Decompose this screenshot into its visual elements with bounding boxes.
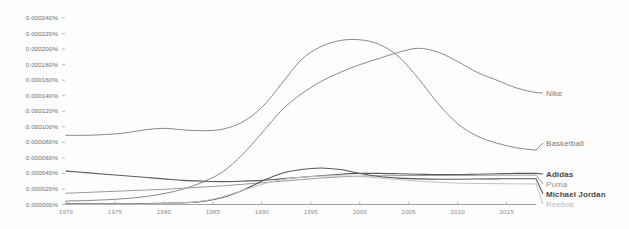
- series-label-adidas[interactable]: Adidas: [546, 170, 573, 179]
- y-tick-label: 0.000140%: [0, 92, 58, 99]
- series-label-nike[interactable]: Nike: [546, 89, 562, 98]
- series-lines-group: [66, 39, 536, 204]
- x-tick-label: 1995: [293, 208, 329, 215]
- series-line-michael-jordan[interactable]: [66, 168, 536, 204]
- series-line-nike[interactable]: [66, 48, 536, 201]
- x-tick-label: 1970: [48, 208, 84, 215]
- y-tick-label: 0.000240%: [0, 14, 58, 21]
- y-tick-label: 0.000160%: [0, 76, 58, 83]
- leader-line-basketball: [536, 143, 543, 150]
- x-tick-label: 1990: [244, 208, 280, 215]
- x-tick-label: 2015: [489, 208, 525, 215]
- y-tick-label: 0.000060%: [0, 154, 58, 161]
- y-tick-label: 0.000080%: [0, 138, 58, 145]
- label-leader-lines: [536, 93, 543, 204]
- leader-line-puma: [536, 175, 543, 184]
- x-tick-label: 1975: [97, 208, 133, 215]
- y-tick-label: 0.000120%: [0, 107, 58, 114]
- y-tick-label: 0.000040%: [0, 169, 58, 176]
- y-tick-label: 0.000100%: [0, 123, 58, 130]
- series-label-reebok[interactable]: Reebok: [546, 200, 574, 209]
- series-label-michael-jordan[interactable]: Michael Jordan: [546, 190, 606, 199]
- chart-plot-area: [0, 0, 629, 229]
- y-tick-label: 0.000180%: [0, 61, 58, 68]
- series-label-puma[interactable]: Puma: [546, 180, 567, 189]
- x-tick-label: 1980: [146, 208, 182, 215]
- y-tick-label: 0.000000%: [0, 201, 58, 208]
- x-tick-label: 2005: [391, 208, 427, 215]
- leader-line-adidas: [536, 173, 543, 174]
- ngram-chart-panel: 0.000240%0.000220%0.000200%0.000180%0.00…: [0, 0, 629, 229]
- y-tick-label: 0.000220%: [0, 30, 58, 37]
- series-label-basketball[interactable]: Basketball: [546, 139, 584, 148]
- x-tick-label: 1985: [195, 208, 231, 215]
- y-tick-label: 0.000020%: [0, 185, 58, 192]
- y-tick-label: 0.000200%: [0, 45, 58, 52]
- y-tick-marks: [62, 18, 65, 205]
- x-tick-label: 2010: [440, 208, 476, 215]
- x-tick-label: 2000: [342, 208, 378, 215]
